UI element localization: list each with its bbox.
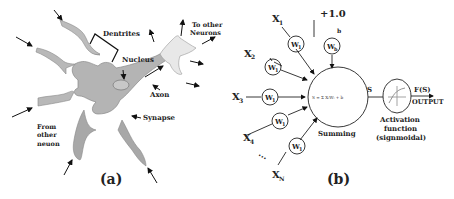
input-x3: X 3 [232,91,243,104]
svg-text:1: 1 [299,146,302,152]
label-to-other-1: To other [192,21,223,29]
label-axon: Axon [149,90,169,99]
label-synapse: Synapse [143,113,176,122]
svg-text:1: 1 [272,97,275,103]
weight-w1-d: W1 [274,117,285,127]
weight-w1-c: W1 [264,93,275,103]
input-x4: X 4 [243,132,254,145]
weight-w1-e: W1 [291,142,302,152]
svg-text:b: b [334,46,338,52]
output-label: OUTPUT [412,98,444,106]
label-nucleus: Nucleus [122,55,154,64]
label-to-other-2: Neurons [190,29,221,37]
svg-text:1: 1 [279,19,283,26]
input-x1: X 1 [272,13,283,26]
svg-text:1: 1 [275,67,278,73]
sum-formula: S = Σ XᵢWᵢ + b [312,95,343,100]
ellipsis: ⋯ [256,151,269,164]
weight-w1-a: W1 [290,40,301,50]
svg-text:2: 2 [251,53,255,60]
bias-label: b [337,27,341,34]
label-from-other-1: From [37,123,56,131]
input-xn: X N [272,169,285,182]
weight-w1-b: W1 [267,63,278,73]
svg-text:3: 3 [239,97,243,104]
artificial-neuron [245,20,433,165]
activation-label-1: Activation [379,115,420,124]
caption-b: (b) [327,171,350,187]
weight-wb: Wb [326,42,338,52]
nucleus-shape [113,80,129,90]
label-from-other-2: other [37,131,57,139]
svg-text:4: 4 [250,138,254,145]
bias-input: +1.0 [320,8,346,19]
output-fs: F(S) [414,85,431,94]
input-x2: X 2 [244,48,255,60]
svg-text:1: 1 [282,121,285,127]
label-from-other-3: neuon [37,140,60,148]
s-label: S [367,85,372,94]
svg-text:N: N [279,175,285,182]
activation-label-3: (signmoidal) [376,133,426,142]
caption-a: (a) [100,171,122,187]
svg-text:1: 1 [298,44,301,50]
label-dentrites: Dentrites [103,29,140,38]
summing-label: Summing [318,129,356,138]
activation-label-2: function [384,124,417,133]
neuron-diagram: Dentrites Nucleus Axon Synapse To other … [0,0,454,199]
